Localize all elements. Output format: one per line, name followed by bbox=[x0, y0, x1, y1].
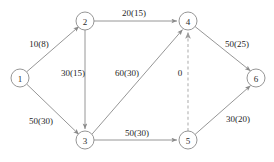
edge-label-1-3: 50(30) bbox=[29, 116, 53, 126]
node-1[interactable]: 1 bbox=[11, 69, 29, 87]
edge-label-5-6: 30(20) bbox=[226, 114, 250, 124]
edge-1-to-3 bbox=[27, 84, 79, 134]
node-2-label: 2 bbox=[83, 17, 88, 27]
edge-3-to-4 bbox=[92, 30, 183, 135]
node-2[interactable]: 2 bbox=[76, 12, 94, 30]
graph-canvas: 10(8) 50(30) 20(15) 30(15) 60(30) 50(30)… bbox=[0, 0, 274, 162]
edge-label-3-4: 60(30) bbox=[115, 68, 139, 78]
node-4[interactable]: 4 bbox=[179, 12, 197, 30]
edges-layer bbox=[27, 21, 251, 140]
node-5[interactable]: 5 bbox=[179, 131, 197, 149]
node-6-label: 6 bbox=[254, 74, 259, 84]
edge-1-to-2 bbox=[27, 26, 79, 72]
edge-label-5-4: 0 bbox=[178, 68, 183, 78]
network-diagram: 10(8) 50(30) 20(15) 30(15) 60(30) 50(30)… bbox=[0, 0, 274, 162]
node-5-label: 5 bbox=[186, 136, 191, 146]
edge-label-4-6: 50(25) bbox=[225, 39, 249, 49]
node-6[interactable]: 6 bbox=[247, 69, 265, 87]
edge-label-2-3: 30(15) bbox=[61, 68, 85, 78]
edge-label-2-4: 20(15) bbox=[122, 8, 146, 18]
node-1-label: 1 bbox=[18, 74, 23, 84]
edge-5-to-6 bbox=[195, 86, 251, 135]
node-4-label: 4 bbox=[186, 17, 191, 27]
edge-label-1-2: 10(8) bbox=[29, 39, 49, 49]
edge-label-3-5: 50(30) bbox=[125, 128, 149, 138]
node-3[interactable]: 3 bbox=[76, 131, 94, 149]
node-3-label: 3 bbox=[83, 136, 88, 146]
